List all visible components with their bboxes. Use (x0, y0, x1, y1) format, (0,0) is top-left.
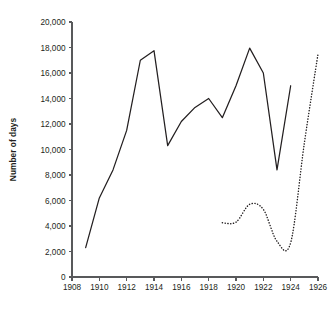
y-tick-label: 4,000 (45, 222, 66, 231)
y-tick-label: 6,000 (45, 197, 66, 206)
x-tick-label: 1924 (282, 283, 301, 292)
x-tick-label: 1914 (145, 283, 164, 292)
series-solid-line (86, 48, 291, 248)
series-group (86, 48, 318, 251)
x-tick-label: 1908 (63, 283, 82, 292)
y-axis-title: Number of days (8, 118, 18, 182)
y-tick-label: 14,000 (40, 95, 65, 104)
y-axis-tick-labels: 02,0004,0006,0008,00010,00012,00014,0001… (40, 18, 65, 282)
x-axis-group: 1908191019121914191619181920192219241926 (63, 277, 328, 292)
y-tick-label: 18,000 (40, 44, 65, 53)
y-tick-label: 8,000 (45, 171, 66, 180)
y-axis-group: 02,0004,0006,0008,00010,00012,00014,0001… (8, 18, 72, 282)
y-tick-label: 20,000 (40, 18, 65, 27)
x-tick-label: 1926 (309, 283, 328, 292)
chart-container: 02,0004,0006,0008,00010,00012,00014,0001… (0, 0, 335, 309)
y-tick-label: 10,000 (40, 146, 65, 155)
x-tick-label: 1912 (118, 283, 137, 292)
x-tick-label: 1922 (254, 283, 273, 292)
y-tick-label: 16,000 (40, 69, 65, 78)
x-tick-label: 1910 (90, 283, 109, 292)
x-tick-label: 1920 (227, 283, 246, 292)
x-tick-label: 1918 (200, 283, 219, 292)
x-tick-label: 1916 (172, 283, 191, 292)
y-tick-label: 12,000 (40, 120, 65, 129)
y-tick-label: 2,000 (45, 248, 66, 257)
y-tick-label: 0 (61, 273, 66, 282)
line-chart: 02,0004,0006,0008,00010,00012,00014,0001… (0, 0, 335, 309)
x-axis-tick-labels: 1908191019121914191619181920192219241926 (63, 283, 328, 292)
